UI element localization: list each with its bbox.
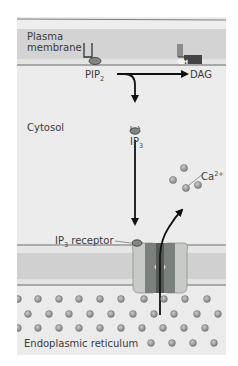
er-membrane xyxy=(17,245,226,285)
calcium-text: Ca xyxy=(201,171,214,182)
dag-label: DAG xyxy=(190,69,212,80)
er-label: Endoplasmic reticulum xyxy=(24,338,138,349)
cytosolic-calcium-ions xyxy=(169,164,201,191)
ip3-receptor-label: IP3 receptor xyxy=(55,235,114,251)
diagram-graphics xyxy=(17,17,226,355)
ip3-receptor-suffix: receptor xyxy=(68,235,113,246)
pip2-subscript: 2 xyxy=(100,75,104,83)
calcium-superscript: 2+ xyxy=(214,170,224,178)
cytosol-label: Cytosol xyxy=(27,122,64,133)
calcium-label: Ca2+ xyxy=(201,169,224,182)
ip3-text: IP xyxy=(130,136,139,147)
pip2-label: PIP2 xyxy=(85,69,104,85)
ip3-molecule-icon xyxy=(130,126,140,134)
ip3-calcium-release-diagram: Plasma membrane OH PIP2 DAG Cytosol IP3 … xyxy=(17,17,226,355)
ip3-label: IP3 xyxy=(130,136,143,152)
ip3-receptor-text: IP xyxy=(55,235,64,246)
plasma-membrane-label: Plasma membrane xyxy=(27,31,75,53)
ip3-bound-icon xyxy=(132,240,142,246)
ip3-subscript: 3 xyxy=(139,142,143,150)
plasma-membrane-text: Plasma membrane xyxy=(27,31,75,53)
pip2-text: PIP xyxy=(85,69,100,80)
oh-label: OH xyxy=(178,56,188,67)
